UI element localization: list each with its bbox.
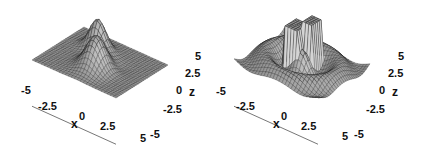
x-tick: 2.5 xyxy=(100,121,115,132)
z-axis-label: z xyxy=(392,86,398,98)
z-tick: -2.5 xyxy=(163,104,182,115)
x-tick: -2.5 xyxy=(38,101,57,112)
z-tick: 0 xyxy=(379,85,385,96)
z-tick: -2.5 xyxy=(366,104,385,115)
x-tick: 5 xyxy=(140,133,146,144)
surface-plot-left: -5 -2.5 0 2.5 5 x 5 2.5 0 z -2.5 -5 xyxy=(0,0,212,149)
x-tick: 0 xyxy=(79,111,85,122)
x-tick: -5 xyxy=(216,86,226,97)
z-tick: -5 xyxy=(354,129,364,140)
surface-plot-right: -5 -2.5 0 2.5 5 x 5 2.5 0 z -2.5 -5 xyxy=(212,0,424,149)
figure: -5 -2.5 0 2.5 5 x 5 2.5 0 z -2.5 -5 -5 -… xyxy=(0,0,424,149)
z-tick: 5 xyxy=(398,51,404,62)
x-axis-label: x xyxy=(273,118,280,130)
x-tick: 0 xyxy=(281,111,287,122)
x-axis-label: x xyxy=(71,118,78,130)
z-tick: -5 xyxy=(150,129,160,140)
x-tick: 5 xyxy=(342,131,348,142)
z-tick: 5 xyxy=(195,51,201,62)
x-tick: -2.5 xyxy=(236,101,255,112)
z-tick: 0 xyxy=(176,85,182,96)
z-tick: 2.5 xyxy=(388,68,403,79)
x-tick: -5 xyxy=(21,85,31,96)
z-tick: 2.5 xyxy=(185,68,200,79)
z-axis-label: z xyxy=(189,86,195,98)
x-tick: 2.5 xyxy=(301,121,316,132)
